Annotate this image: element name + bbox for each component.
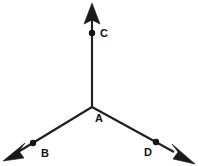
label-c: C — [100, 27, 108, 39]
ray-ac-group — [84, 3, 100, 107]
ray-ad-line — [92, 107, 174, 152]
label-b: B — [41, 147, 49, 159]
rays-diagram-svg: C A B D — [0, 0, 198, 166]
ray-ab-arrowhead-icon — [3, 143, 25, 161]
point-d-dot — [153, 139, 159, 145]
label-d: D — [144, 146, 152, 158]
point-c-dot — [89, 30, 95, 36]
point-b-dot — [30, 140, 36, 146]
label-a: A — [95, 112, 103, 124]
ray-ad-arrowhead-icon — [172, 144, 195, 164]
ray-ab-line — [18, 107, 92, 152]
geometry-diagram-canvas: C A B D — [0, 0, 198, 166]
